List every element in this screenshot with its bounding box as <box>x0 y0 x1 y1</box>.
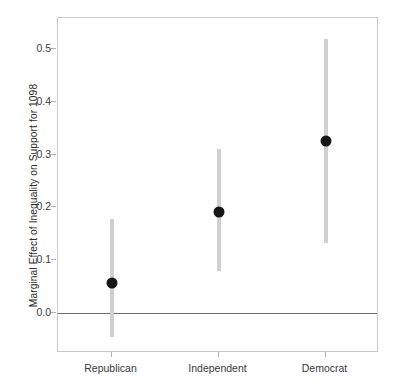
y-tick-label: 0.5 <box>21 42 51 54</box>
x-tick-label-independent: Independent <box>158 362 278 374</box>
data-point-democrat <box>320 135 331 146</box>
y-tick-mark <box>51 154 56 155</box>
y-tick-mark <box>51 206 56 207</box>
x-tick-label-democrat: Democrat <box>265 362 385 374</box>
y-tick-label: 0.0 <box>21 306 51 318</box>
y-tick-mark <box>51 48 56 49</box>
y-tick-mark <box>51 259 56 260</box>
x-tick-label-republican: Republican <box>51 362 171 374</box>
x-tick-mark <box>218 352 219 357</box>
data-point-independent <box>213 206 224 217</box>
x-tick-mark <box>111 352 112 357</box>
y-tick-label: 0.1 <box>21 253 51 265</box>
data-point-republican <box>106 278 117 289</box>
plot-area <box>57 17 378 352</box>
y-tick-mark <box>51 312 56 313</box>
zero-reference-line <box>58 313 377 314</box>
y-tick-label: 0.2 <box>21 200 51 212</box>
chart-figure: Marginal Effect of Inequality on Support… <box>0 0 395 391</box>
x-tick-mark <box>325 352 326 357</box>
y-axis-ticks: 0.00.10.20.30.40.5 <box>0 0 51 391</box>
y-tick-mark <box>51 101 56 102</box>
y-tick-label: 0.4 <box>21 95 51 107</box>
y-tick-label: 0.3 <box>21 148 51 160</box>
